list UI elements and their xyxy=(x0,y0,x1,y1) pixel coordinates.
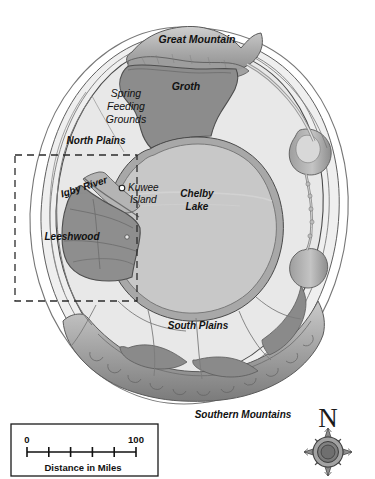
map-graphic: Great Mountain Groth Spring Feeding Grou… xyxy=(0,0,375,479)
label-kuwee-island-line2: Island xyxy=(130,194,157,205)
scale-max-label: 100 xyxy=(128,434,144,445)
label-southern-mountains: Southern Mountains xyxy=(195,409,292,420)
label-spring-feeding-grounds-line3: Grounds xyxy=(106,113,147,125)
small-islet-marker[interactable] xyxy=(125,235,129,239)
kuwee-island-marker[interactable] xyxy=(119,185,125,191)
label-chelby-lake-line2: Lake xyxy=(186,201,209,212)
label-south-plains: South Plains xyxy=(168,320,229,331)
label-north-plains: North Plains xyxy=(67,135,126,146)
label-groth: Groth xyxy=(172,80,201,92)
label-spring-feeding-grounds-line1: Spring xyxy=(111,87,142,99)
label-chelby-lake-line1: Chelby xyxy=(180,188,214,199)
map-canvas: Great Mountain Groth Spring Feeding Grou… xyxy=(0,0,375,479)
label-spring-feeding-grounds-line2: Feeding xyxy=(107,100,145,112)
scale-caption: Distance in Miles xyxy=(44,462,121,473)
label-leeshwood: Leeshwood xyxy=(44,231,100,242)
scale-min-label: 0 xyxy=(24,434,29,445)
scale-bar: 0 100 Distance in Miles xyxy=(11,424,158,476)
label-kuwee-island-line1: Kuwee xyxy=(128,182,159,193)
label-great-mountain: Great Mountain xyxy=(158,33,235,45)
